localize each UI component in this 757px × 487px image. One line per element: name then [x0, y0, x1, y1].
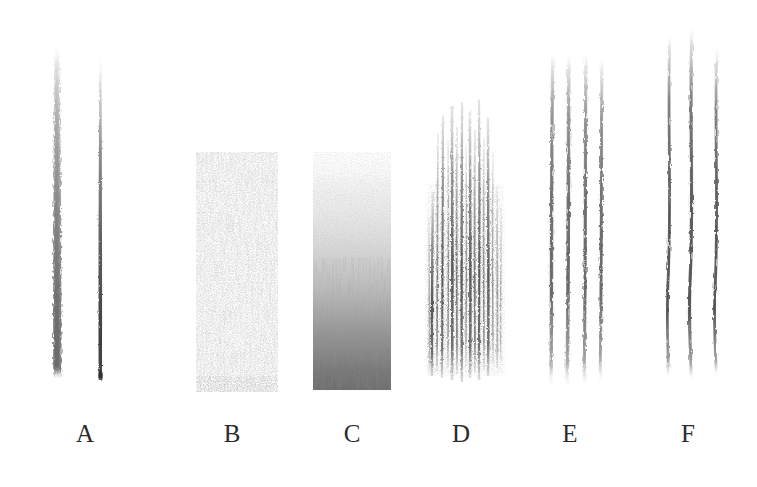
specimen-plate: A B C D E F	[0, 0, 757, 487]
specimen-label-c: C	[332, 421, 372, 446]
specimen-b	[192, 148, 284, 396]
specimen-label-d: D	[441, 421, 481, 446]
specimen-d-stroke-bundle	[420, 96, 512, 388]
specimen-c-gradient-field	[309, 148, 395, 394]
specimen-e	[542, 46, 614, 394]
specimen-label-f: F	[668, 421, 708, 446]
specimen-a-broad-stroke	[53, 42, 61, 380]
specimen-a-strokes	[44, 40, 114, 385]
specimen-label-e: E	[550, 421, 590, 446]
specimen-f-wavy-lines	[658, 20, 730, 386]
specimen-label-b: B	[212, 421, 252, 446]
specimen-f	[658, 20, 730, 386]
specimen-b-field	[192, 148, 284, 396]
specimen-a-thin-stroke	[98, 52, 103, 381]
specimen-a	[44, 40, 114, 385]
specimen-label-a: A	[65, 421, 105, 446]
specimen-c	[309, 148, 395, 394]
specimen-d	[420, 96, 512, 388]
specimen-e-parallel-strokes	[542, 46, 614, 394]
